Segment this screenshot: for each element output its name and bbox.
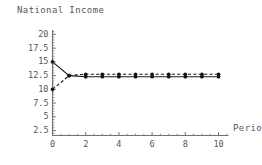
x-axis-tick-label: 10 xyxy=(211,139,227,149)
y-axis-tick-label: 17.5 xyxy=(13,43,49,53)
series-group xyxy=(51,60,221,91)
y-axis-tick-label: 12.5 xyxy=(13,70,49,80)
data-point-marker xyxy=(117,75,121,79)
x-axis-tick-label: 0 xyxy=(45,139,61,149)
data-point-marker xyxy=(84,75,88,79)
data-point-marker xyxy=(183,75,187,79)
data-point-marker xyxy=(100,75,104,79)
y-axis-tick-label: 15 xyxy=(13,56,49,66)
y-axis-tick-label: 2.5 xyxy=(13,125,49,135)
data-point-marker xyxy=(167,75,171,79)
data-point-marker xyxy=(134,75,138,79)
x-axis-tick-label: 6 xyxy=(144,139,160,149)
x-axis-tick-label: 2 xyxy=(78,139,94,149)
x-axis-tick-label: 8 xyxy=(177,139,193,149)
data-point-marker xyxy=(51,60,55,64)
national-income-chart: National Income Period 2.557.51012.51517… xyxy=(0,0,262,165)
y-axis-tick-label: 5 xyxy=(13,111,49,121)
y-axis xyxy=(53,30,56,136)
y-axis-tick-label: 7.5 xyxy=(13,98,49,108)
x-axis xyxy=(53,132,229,135)
y-axis-tick-label: 20 xyxy=(13,29,49,39)
data-point-marker xyxy=(51,87,55,91)
data-point-marker xyxy=(200,75,204,79)
data-point-marker xyxy=(67,74,71,78)
x-axis-tick-label: 4 xyxy=(111,139,127,149)
data-point-marker xyxy=(217,75,221,79)
y-axis-tick-label: 10 xyxy=(13,84,49,94)
data-point-marker xyxy=(150,75,154,79)
